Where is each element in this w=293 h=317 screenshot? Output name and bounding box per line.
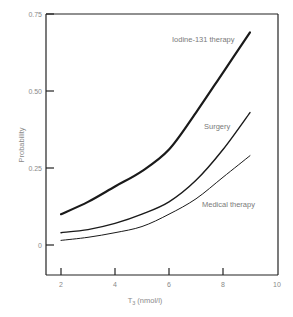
x-tick-label: 2 bbox=[59, 281, 63, 288]
x-axis-ticks: 246810 bbox=[59, 268, 281, 288]
y-tick-label: 0.25 bbox=[28, 165, 42, 172]
annotation-medical-therapy: Medical therapy bbox=[202, 200, 255, 209]
series-lines bbox=[61, 32, 250, 240]
x-tick-label: 6 bbox=[167, 281, 171, 288]
x-axis-title-units: (nmol/l) bbox=[135, 296, 163, 305]
x-axis-title: T3 (nmol/l) bbox=[128, 296, 163, 306]
line-chart: 00.250.500.75 246810 Iodine-131 therapy … bbox=[0, 0, 293, 317]
series-line-medical-therapy bbox=[61, 156, 250, 241]
annotation-surgery: Surgery bbox=[204, 122, 231, 131]
annotation-iodine-131-therapy: Iodine-131 therapy bbox=[172, 35, 235, 44]
x-tick-label: 4 bbox=[113, 281, 117, 288]
y-axis-title: Probability bbox=[17, 127, 26, 162]
y-tick-label: 0 bbox=[38, 242, 42, 249]
x-tick-label: 8 bbox=[221, 281, 225, 288]
plot-frame bbox=[46, 14, 278, 275]
y-axis-ticks: 00.250.500.75 bbox=[28, 11, 54, 249]
x-tick-label: 10 bbox=[273, 281, 281, 288]
y-tick-label: 0.50 bbox=[28, 88, 42, 95]
y-tick-label: 0.75 bbox=[28, 11, 42, 18]
